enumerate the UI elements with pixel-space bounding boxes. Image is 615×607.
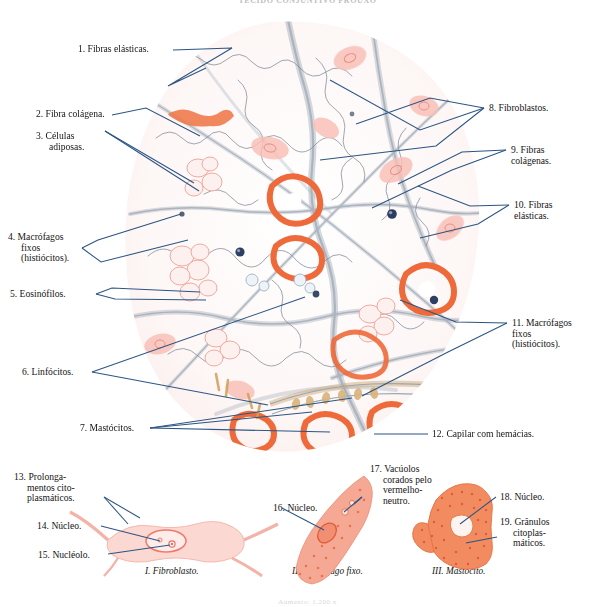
label-2: 2. Fibra colágena.: [36, 109, 105, 120]
label-12: 12. Capilar com hemácias.: [432, 429, 534, 440]
label-15: 15. Nucléolo.: [38, 550, 90, 561]
label-11: 11. Macrófagos fixos (histiócitos).: [512, 318, 572, 350]
figure-caption-i: I. Fibroblasto.: [145, 566, 199, 576]
label-17: 17. Vacúolos corados pelo vermelho- neut…: [370, 464, 449, 506]
label-8: 8. Fibroblastos.: [489, 103, 548, 114]
label-16: 16. Núcleo.: [273, 503, 318, 514]
plate-footer: Aumento: 1.200 x: [0, 598, 615, 606]
label-5: 5. Eosinófilos.: [10, 289, 66, 300]
label-13: 13. Prolonga- mentos cito- plasmáticos.: [14, 472, 119, 504]
label-10: 10. Fibras elásticas.: [514, 200, 552, 221]
histology-plate: TECIDO CONJUNTIVO FROUXO: [0, 0, 615, 607]
micrograph-image: [120, 18, 490, 458]
label-7: 7. Mastócitos.: [80, 423, 134, 434]
label-14: 14. Núcleo.: [37, 521, 82, 532]
label-6: 6. Linfócitos.: [22, 367, 73, 378]
label-19: 19. Grânulos citoplas- máticos.: [500, 517, 585, 549]
plate-title: TECIDO CONJUNTIVO FROUXO: [0, 0, 615, 5]
label-9: 9. Fibras colágenas.: [511, 145, 551, 166]
figure-caption-iii: III. Mastócito.: [432, 566, 485, 576]
label-18: 18. Núcleo.: [500, 492, 545, 503]
figure-caption-ii: II. Macrófago fixo.: [292, 566, 363, 576]
label-1: 1. Fibras elásticas.: [78, 44, 149, 55]
label-3: 3. Células adiposas.: [36, 131, 121, 152]
label-4: 4. Macrófagos fixos (histiócitos).: [8, 232, 101, 264]
